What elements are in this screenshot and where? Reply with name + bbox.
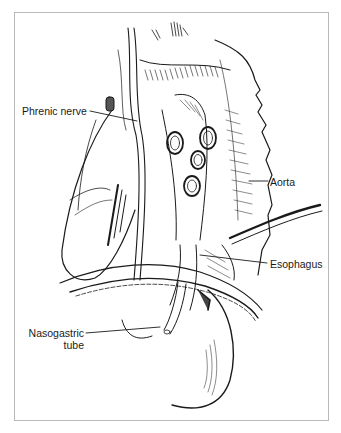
anatomy-illustration	[0, 0, 341, 433]
label-phrenic-nerve: Phrenic nerve	[22, 105, 87, 117]
esophagus-leader	[200, 255, 267, 263]
phrenic-nerve	[128, 28, 139, 280]
label-esophagus: Esophagus	[270, 258, 323, 270]
diaphragm	[60, 265, 262, 310]
vessel-ring-1	[167, 132, 183, 154]
label-nasogastric-tube: Nasogastric tube	[26, 327, 84, 351]
phrenic-leader	[90, 111, 137, 121]
vessel-ring-2	[200, 127, 216, 149]
vessel-ring-3	[191, 151, 205, 169]
label-nasogastric-line1: Nasogastric	[26, 327, 84, 339]
vessel-ring-4	[184, 176, 200, 196]
label-aorta: Aorta	[270, 176, 295, 188]
heart-outline	[62, 110, 135, 280]
label-nasogastric-line2: tube	[26, 339, 84, 351]
nasogastric-leader	[86, 327, 160, 333]
